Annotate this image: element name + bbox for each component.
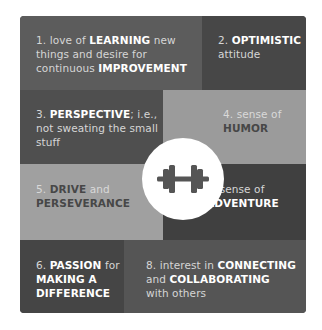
trait-number: 1.	[36, 34, 46, 46]
trait-keyword: IMPROVEMENT	[98, 62, 187, 74]
traits-infographic-card: 1. love of LEARNING new things and desir…	[20, 16, 306, 313]
dumbbell-icon	[155, 163, 211, 195]
trait-number: 5.	[36, 183, 46, 195]
trait-text: for	[102, 259, 120, 271]
trait-keyword: HUMOR	[223, 122, 268, 134]
trait-cell-7: 6. PASSION for MAKING A DIFFERENCE	[20, 240, 124, 313]
trait-text: interest in	[156, 259, 217, 271]
trait-number: 6.	[36, 259, 46, 271]
trait-text: with others	[146, 287, 206, 299]
trait-keyword: PERSEVERANCE	[36, 197, 130, 209]
trait-keyword: LEARNING	[89, 34, 150, 46]
trait-cell-3: 3. PERSPECTIVE; i.e., not sweating the s…	[20, 90, 163, 164]
trait-text: and	[146, 273, 170, 285]
trait-keyword: COLLABORATING	[170, 273, 270, 285]
trait-keyword: PASSION	[50, 259, 102, 271]
trait-text: sense of	[233, 108, 281, 120]
trait-number: 3.	[36, 108, 46, 120]
center-circle	[142, 138, 224, 220]
trait-keyword: MAKING A DIFFERENCE	[36, 272, 116, 300]
trait-number: 4.	[223, 108, 233, 120]
trait-text: love of	[46, 34, 89, 46]
trait-keyword: DRIVE	[50, 183, 87, 195]
trait-number: 8.	[146, 259, 156, 271]
trait-text: and	[86, 183, 110, 195]
trait-cell-1: 1. love of LEARNING new things and desir…	[20, 16, 202, 90]
trait-keyword: PERSPECTIVE	[50, 108, 131, 120]
trait-keyword: OPTIMISTIC	[232, 34, 301, 46]
trait-number: 2.	[218, 34, 228, 46]
trait-text: attitude	[218, 48, 260, 60]
trait-cell-2: 2. OPTIMISTICattitude	[202, 16, 306, 90]
trait-cell-8: 8. interest in CONNECTINGand COLLABORATI…	[124, 240, 306, 313]
trait-keyword: CONNECTING	[217, 259, 296, 271]
